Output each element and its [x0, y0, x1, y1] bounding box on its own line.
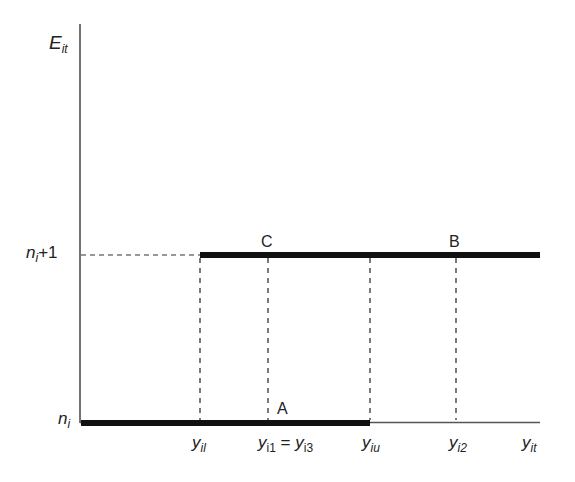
y-tick-ni-plus-1: ni+1	[26, 244, 58, 261]
x-tick-yil: yil	[192, 434, 206, 451]
x-tick-yiu: yiu	[362, 434, 380, 451]
x-tick-yi2: yi2	[449, 434, 467, 451]
x-axis-label: yit	[522, 434, 537, 451]
y-tick-ni: ni	[58, 410, 70, 427]
point-label-b: B	[449, 234, 460, 250]
point-label-a: A	[277, 401, 288, 417]
x-tick-yi1-yi3: yi1 = yi3	[258, 434, 313, 451]
y-axis-label: Eit	[49, 33, 68, 52]
point-label-c: C	[261, 234, 273, 250]
